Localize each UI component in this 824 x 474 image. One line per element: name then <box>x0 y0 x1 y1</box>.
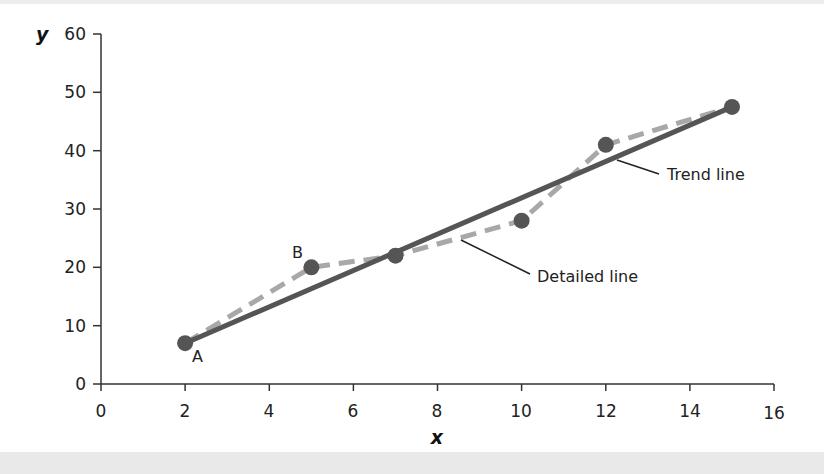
x-tick-label: 8 <box>432 401 443 421</box>
trend-line <box>185 107 732 343</box>
x-tick-label: 0 <box>96 401 107 421</box>
data-point-marker <box>388 248 404 264</box>
y-tick-label: 10 <box>64 316 86 336</box>
y-tick-label: 0 <box>75 374 86 394</box>
point-a-label: A <box>192 347 203 366</box>
x-tick-label: 14 <box>679 401 701 421</box>
x-tick-label: 6 <box>348 401 359 421</box>
y-axis: 60 50 40 30 20 10 0 y <box>36 23 101 394</box>
x-tick-label: 16 <box>763 403 785 423</box>
y-tick-label: 40 <box>64 141 86 161</box>
y-tick-label: 60 <box>64 24 86 44</box>
x-axis-title: x <box>430 426 444 448</box>
data-point-marker <box>177 335 193 351</box>
y-tick-label: 50 <box>64 82 86 102</box>
x-axis: 0 2 4 6 8 10 12 14 16 x <box>96 384 785 448</box>
x-tick-label: 2 <box>180 401 191 421</box>
y-tick-label: 20 <box>64 257 86 277</box>
trend-line-leader <box>617 160 659 174</box>
trend-line-label: Trend line <box>666 165 745 184</box>
x-tick-label: 12 <box>595 401 617 421</box>
data-point-marker <box>598 137 614 153</box>
detailed-line-leader <box>461 240 530 274</box>
x-tick-label: 10 <box>510 401 532 421</box>
data-point-marker <box>514 213 530 229</box>
y-tick-label: 30 <box>64 199 86 219</box>
x-tick-label: 4 <box>264 401 275 421</box>
detailed-line-label: Detailed line <box>537 267 638 286</box>
point-b-label: B <box>292 243 303 262</box>
line-chart: 60 50 40 30 20 10 0 y 0 2 4 6 8 10 12 14… <box>0 0 824 474</box>
y-axis-title: y <box>36 23 50 45</box>
data-point-marker <box>303 259 319 275</box>
data-point-marker <box>724 99 740 115</box>
